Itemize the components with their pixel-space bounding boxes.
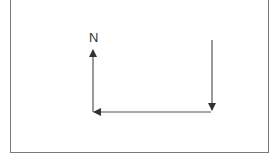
arrow-diagram [0,0,280,168]
north-label: N [89,30,98,45]
